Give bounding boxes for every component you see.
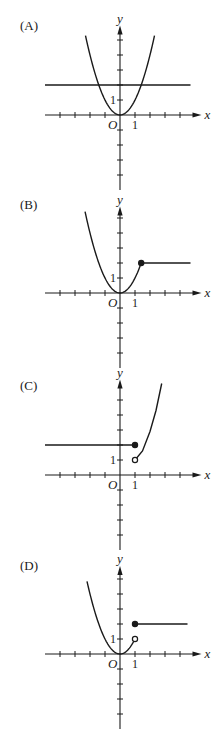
panel-label: (B) <box>20 197 37 212</box>
y-tick-label-1: 1 <box>110 632 116 646</box>
y-axis-label: y <box>115 551 123 566</box>
origin-label: O <box>108 295 118 310</box>
panel-label: (D) <box>20 558 38 573</box>
x-axis-arrow-icon <box>193 112 202 117</box>
y-axis-label: y <box>115 192 123 207</box>
y-axis-arrow-icon <box>117 380 122 389</box>
y-tick-label-1: 1 <box>110 271 116 285</box>
x-tick-label-1: 1 <box>132 296 138 310</box>
x-axis-label: x <box>204 285 211 300</box>
y-tick-label-1: 1 <box>110 453 116 467</box>
graph-b: (B)xyO11 <box>20 192 211 369</box>
panel-label: (A) <box>20 18 38 33</box>
closed-dot-icon <box>139 260 144 265</box>
graph-a: (A)xyO11 <box>20 11 211 191</box>
origin-label: O <box>108 656 118 671</box>
y-axis-label: y <box>115 365 123 380</box>
y-axis-label: y <box>115 11 123 26</box>
graph-d: (D)xyO11 <box>20 551 211 729</box>
graph-c: (C)xyO11 <box>20 365 211 551</box>
x-axis-arrow-icon <box>193 290 202 295</box>
panel-label: (C) <box>20 378 37 393</box>
x-tick-label-1: 1 <box>132 118 138 132</box>
figure-canvas: (A)xyO11(B)xyO11(C)xyO11(D)xyO11 <box>0 0 224 742</box>
series-curve <box>135 384 162 461</box>
y-axis-arrow-icon <box>117 26 122 35</box>
x-axis-label: x <box>204 107 211 122</box>
x-tick-label-1: 1 <box>132 478 138 492</box>
x-axis-arrow-icon <box>193 472 202 477</box>
closed-dot-icon <box>132 621 137 626</box>
closed-dot-icon <box>132 442 137 447</box>
origin-label: O <box>108 477 118 492</box>
open-circle-icon <box>132 457 137 462</box>
x-axis-label: x <box>204 646 211 661</box>
x-axis-label: x <box>204 467 211 482</box>
y-tick-label-1: 1 <box>110 93 116 107</box>
y-axis-arrow-icon <box>117 566 122 575</box>
x-axis-arrow-icon <box>193 651 202 656</box>
x-tick-label-1: 1 <box>132 657 138 671</box>
origin-label: O <box>108 117 118 132</box>
open-circle-icon <box>132 636 137 641</box>
y-axis-arrow-icon <box>117 207 122 216</box>
